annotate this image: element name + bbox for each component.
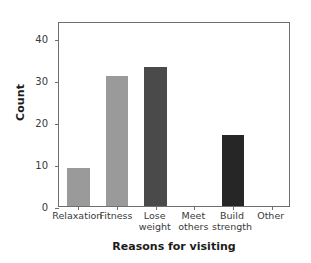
plot-area bbox=[58, 22, 290, 207]
y-tick-label: 40 bbox=[35, 33, 48, 44]
x-axis-title: Reasons for visiting bbox=[58, 240, 290, 253]
y-tick-label: 0 bbox=[42, 202, 48, 213]
bar bbox=[106, 76, 128, 206]
y-tick-mark bbox=[55, 40, 59, 41]
y-tick-label: 30 bbox=[35, 75, 48, 86]
bar bbox=[222, 135, 244, 206]
x-axis-tick-labels: RelaxationFitnessLoseweightMeetothersBui… bbox=[58, 210, 290, 242]
y-tick-label: 10 bbox=[35, 159, 48, 170]
bar bbox=[67, 168, 89, 206]
y-tick-mark bbox=[55, 166, 59, 167]
bar bbox=[144, 67, 166, 206]
bar-chart-figure: Count 010203040 RelaxationFitnessLosewei… bbox=[0, 0, 311, 263]
x-tick-label: Other bbox=[243, 210, 298, 221]
y-tick-label: 20 bbox=[35, 117, 48, 128]
plot-inner bbox=[59, 23, 289, 206]
y-tick-mark bbox=[55, 82, 59, 83]
y-axis-tick-labels: 010203040 bbox=[0, 0, 54, 263]
y-tick-mark bbox=[55, 208, 59, 209]
y-tick-mark bbox=[55, 124, 59, 125]
